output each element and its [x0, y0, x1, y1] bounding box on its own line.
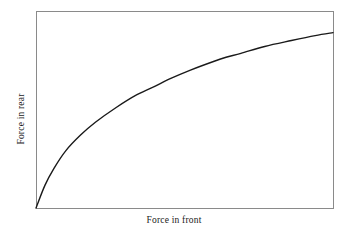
y-axis-label-container: Force in rear [14, 0, 30, 238]
chart-figure: Force in rear Force in front [0, 0, 348, 238]
plot-canvas [0, 0, 348, 238]
figure-background [0, 0, 348, 238]
y-axis-label: Force in rear [17, 93, 27, 144]
x-axis-label: Force in front [0, 216, 348, 226]
